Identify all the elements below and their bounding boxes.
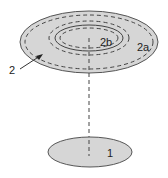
label-2b: 2b xyxy=(100,36,112,48)
label-2: 2 xyxy=(9,64,15,76)
lower-disc xyxy=(48,137,132,167)
diagram-canvas: 2 2a 2b 1 xyxy=(0,0,168,178)
label-1: 1 xyxy=(107,147,113,159)
label-2a: 2a xyxy=(137,41,150,53)
